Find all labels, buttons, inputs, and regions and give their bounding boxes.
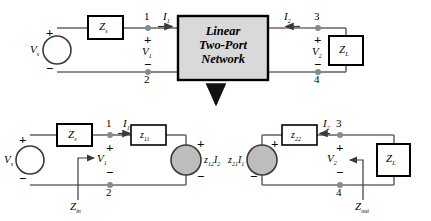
node-dot-1-bottom bbox=[107, 132, 113, 138]
bottom-left-source-minus: − bbox=[19, 172, 26, 185]
bottom-node-2-label: 2 bbox=[106, 187, 112, 198]
z11-label: z11 bbox=[140, 130, 149, 142]
zin-label: Zin bbox=[70, 201, 81, 214]
top-i1-label: I1 bbox=[163, 11, 170, 24]
z21i1-label: z21I1 bbox=[228, 155, 244, 167]
zout-label: Zout bbox=[355, 201, 369, 214]
top-node-3-label: 3 bbox=[314, 11, 320, 22]
bottom-node-3-label: 3 bbox=[336, 118, 342, 129]
dep-source-left-minus: − bbox=[197, 170, 204, 183]
network-line-2: Two-Port bbox=[178, 38, 268, 52]
top-v2-minus: − bbox=[314, 58, 321, 71]
top-source-label: Vs bbox=[30, 44, 39, 57]
top-zl-label: ZL bbox=[339, 44, 348, 57]
top-v1-minus: − bbox=[144, 58, 151, 71]
node-dot-1 bbox=[145, 25, 151, 31]
top-source-plus: + bbox=[46, 26, 53, 39]
bottom-left-zs-label: Zs bbox=[68, 129, 76, 142]
zin-marker-arrow bbox=[78, 158, 94, 200]
top-source-minus: − bbox=[46, 62, 53, 75]
network-line-3: Network bbox=[178, 52, 268, 66]
bottom-node-4-label: 4 bbox=[336, 187, 342, 198]
bottom-v1-minus: − bbox=[106, 166, 113, 179]
bottom-left-source-plus: + bbox=[19, 133, 26, 146]
bottom-zl-label: ZL bbox=[386, 153, 395, 166]
z22-label: z22 bbox=[291, 130, 301, 142]
dep-source-right-plus: + bbox=[271, 137, 278, 150]
bottom-i1-label: I1 bbox=[123, 118, 130, 131]
bottom-node-1-label: 1 bbox=[106, 118, 112, 129]
bottom-i2-label: I2 bbox=[323, 118, 330, 131]
bottom-v1-plus: + bbox=[106, 141, 113, 154]
z12i2-label: z12I2 bbox=[204, 155, 220, 167]
network-box-text: Linear Two-Port Network bbox=[178, 24, 268, 66]
bottom-v2-plus: + bbox=[336, 141, 343, 154]
dep-source-left-plus: + bbox=[197, 137, 204, 150]
top-zs-label: Zs bbox=[99, 21, 107, 34]
top-voltage-source-symbol bbox=[43, 36, 71, 64]
zout-marker-arrow bbox=[350, 160, 363, 200]
node-dot-3-bottom bbox=[337, 132, 343, 138]
top-i2-label: I2 bbox=[284, 11, 291, 24]
bottom-left-voltage-source-symbol bbox=[16, 146, 44, 174]
dep-source-right-minus: − bbox=[250, 170, 257, 183]
node-dot-3 bbox=[315, 25, 321, 31]
circuit-figure: Vs + − Zs 1 2 I1 + V1 − Linear Two-Port … bbox=[0, 0, 431, 221]
bottom-v2-minus: − bbox=[336, 166, 343, 179]
bottom-left-source-label: Vs bbox=[4, 154, 13, 167]
top-node-1-label: 1 bbox=[144, 11, 150, 22]
network-line-1: Linear bbox=[178, 24, 268, 38]
top-node-4-label: 4 bbox=[314, 74, 320, 85]
top-node-2-label: 2 bbox=[144, 74, 150, 85]
